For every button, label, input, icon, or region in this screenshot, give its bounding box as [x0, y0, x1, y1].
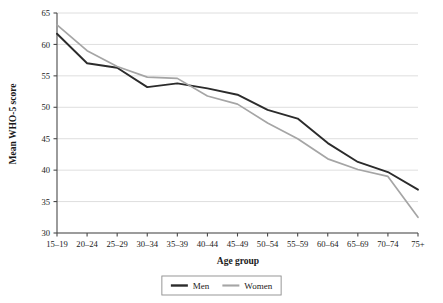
y-tick-label: 65: [41, 8, 50, 18]
y-tick-label: 50: [41, 102, 50, 112]
x-tick-label: 15–19: [46, 239, 67, 249]
x-tick-label: 65–69: [347, 239, 368, 249]
y-tick-label: 40: [41, 165, 50, 175]
y-axis-title: Mean WHO-5 score: [8, 84, 18, 165]
x-tick-label: 45–49: [227, 239, 248, 249]
legend-label-men: Men: [193, 281, 210, 291]
x-tick-label: 35–39: [167, 239, 188, 249]
x-axis-title: Age group: [217, 256, 259, 266]
x-tick-label: 40–44: [197, 239, 219, 249]
y-tick-label: 30: [41, 228, 50, 238]
x-tick-label: 75+: [411, 239, 425, 249]
who5-by-age-line-chart: 3035404550556065 15–1920–2425–2930–3435–…: [0, 0, 443, 303]
chart-legend: MenWomen: [162, 276, 281, 295]
chart-figure: 3035404550556065 15–1920–2425–2930–3435–…: [0, 0, 443, 303]
x-tick-label: 25–29: [106, 239, 127, 249]
x-tick-label: 20–24: [76, 239, 98, 249]
x-tick-label: 70–74: [377, 239, 399, 249]
y-tick-label: 55: [41, 71, 50, 81]
x-tick-label: 30–34: [137, 239, 159, 249]
x-tick-label: 60–64: [317, 239, 339, 249]
y-tick-label: 35: [41, 197, 50, 207]
y-tick-label: 45: [41, 134, 50, 144]
x-tick-label: 50–54: [257, 239, 279, 249]
legend-label-women: Women: [244, 281, 272, 291]
y-tick-label: 60: [41, 40, 50, 50]
x-tick-label: 55–59: [287, 239, 308, 249]
